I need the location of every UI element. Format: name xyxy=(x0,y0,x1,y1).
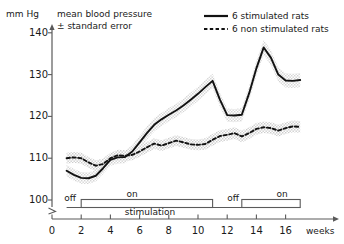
y-tick-label: 140 xyxy=(14,27,48,38)
blood-pressure-chart: mm Hg mean blood pressure ± standard err… xyxy=(0,0,344,244)
x-tick-label: 2 xyxy=(67,225,95,236)
x-tick-label: 0 xyxy=(38,225,66,236)
x-tick-label: 4 xyxy=(96,225,124,236)
axis-break-mark xyxy=(49,208,56,214)
stimulation-on-box-3 xyxy=(242,200,300,208)
series-line-0 xyxy=(67,47,301,178)
y-tick-label: 120 xyxy=(14,110,48,121)
x-axis-arrow xyxy=(333,216,339,221)
x-tick-label: 16 xyxy=(272,225,300,236)
plot-surface xyxy=(0,0,344,244)
x-tick-label: 8 xyxy=(155,225,183,236)
x-tick-label: 12 xyxy=(213,225,241,236)
y-tick-label: 100 xyxy=(14,194,48,205)
y-axis-arrow xyxy=(49,24,54,30)
x-tick-label: 14 xyxy=(242,225,270,236)
stimulation-on-box-1 xyxy=(81,200,212,208)
x-tick-label: 10 xyxy=(184,225,212,236)
x-tick-label: 6 xyxy=(126,225,154,236)
y-tick-label: 110 xyxy=(14,152,48,163)
y-tick-label: 130 xyxy=(14,69,48,80)
